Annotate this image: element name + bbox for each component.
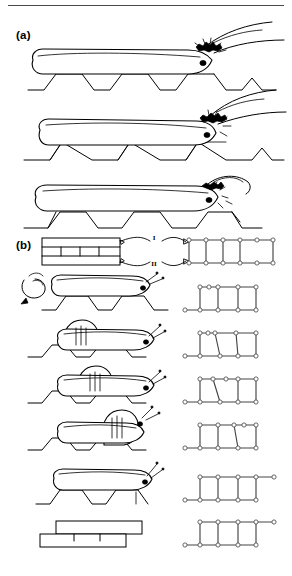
panel-b-key-block (42, 238, 120, 265)
panel-b-key-label-I: I (153, 234, 156, 242)
panel-b-stage-5-graph (183, 475, 276, 502)
panel-b-stage-5-drawing (36, 462, 164, 504)
panel-a-stage-2 (24, 90, 286, 160)
panel-b-stage-1-drawing (21, 272, 168, 310)
panel-b-key-label-II: II (151, 260, 157, 268)
panel-a-stage-3 (24, 176, 262, 228)
surface-label-I: I (153, 234, 156, 242)
figure-canvas: I II (0, 0, 292, 576)
panel-b-stage-3-graph (183, 377, 258, 404)
panel-b-stage-2-drawing (28, 320, 166, 357)
surface-label-II: II (151, 260, 157, 268)
panel-b-stage-6-drawing (40, 521, 142, 547)
panel-b-stage-4-graph (183, 423, 258, 450)
panel-b-key-graph (187, 238, 275, 265)
panel-b-stage-6-graph (183, 520, 276, 547)
panel-b-stage-1-graph (183, 285, 258, 312)
panel-b-stage-4-drawing (28, 406, 160, 450)
panel-a-stage-1 (28, 22, 284, 90)
panel-b-stage-3-drawing (28, 366, 166, 403)
panel-b-stage-2-graph (183, 331, 258, 358)
